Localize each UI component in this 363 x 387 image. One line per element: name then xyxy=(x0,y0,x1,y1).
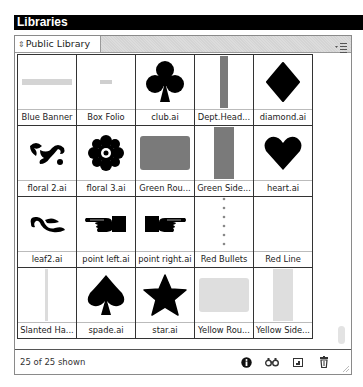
library-item-label: star.ai xyxy=(136,322,194,338)
rect-light-icon xyxy=(195,268,253,322)
dots-icon xyxy=(195,197,253,251)
point-right-icon xyxy=(136,197,194,251)
library-item[interactable]: Box Folio xyxy=(77,55,136,126)
library-item[interactable]: Yellow Rou... xyxy=(195,268,254,339)
floral2-icon xyxy=(18,126,76,180)
library-item-label: Red Line xyxy=(254,251,312,267)
library-item[interactable]: point left.ai xyxy=(77,197,136,268)
library-item-label: Green Side... xyxy=(195,180,253,196)
library-item[interactable]: floral 2.ai xyxy=(18,126,77,197)
library-item-label: Yellow Side... xyxy=(254,322,312,338)
library-item-label: floral 2.ai xyxy=(18,180,76,196)
library-item-label: Box Folio xyxy=(77,109,135,125)
vbar-gray-wide-icon xyxy=(195,126,253,180)
vbar-gray-icon xyxy=(195,55,253,109)
vline-light-icon xyxy=(18,268,76,322)
library-item[interactable]: Red Bullets xyxy=(195,197,254,268)
floral3-icon xyxy=(77,126,135,180)
library-item[interactable]: Blue Banner xyxy=(18,55,77,126)
hbar-light-icon xyxy=(18,55,76,109)
library-item-label: Slanted Ha... xyxy=(18,322,76,338)
library-item[interactable]: Red Line xyxy=(254,197,313,268)
panel-footer: 25 of 25 shown xyxy=(15,349,351,374)
delete-button[interactable] xyxy=(317,355,331,369)
leaf-icon xyxy=(18,197,76,251)
library-item[interactable]: Slanted Ha... xyxy=(18,268,77,339)
library-item-label: leaf2.ai xyxy=(18,251,76,267)
library-item-label: Dept.Head... xyxy=(195,109,253,125)
scrollbar-thumb[interactable] xyxy=(338,326,345,344)
spade-icon xyxy=(77,268,135,322)
library-item-label: Blue Banner xyxy=(18,109,76,125)
find-button[interactable] xyxy=(265,355,279,369)
vertical-scrollbar[interactable] xyxy=(335,54,349,346)
info-icon xyxy=(241,357,252,368)
blank-icon xyxy=(254,197,312,251)
library-item[interactable]: Yellow Side... xyxy=(254,268,313,339)
panel-menu-icon[interactable] xyxy=(334,38,348,49)
item-count: 25 of 25 shown xyxy=(20,350,85,374)
library-item[interactable]: Dept.Head... xyxy=(195,55,254,126)
library-select-value: Public Library xyxy=(26,38,90,49)
vbar-light-icon xyxy=(254,268,312,322)
rect-gray-icon xyxy=(136,126,194,180)
binoculars-icon xyxy=(265,357,279,367)
library-grid-viewport: Blue BannerBox Folioclub.aiDept.Head...d… xyxy=(17,54,315,346)
updown-arrows-icon: ⇕ xyxy=(18,40,25,49)
libraries-panel: ⇕Public Library Blue BannerBox Folioclub… xyxy=(14,35,352,375)
library-item-label: diamond.ai xyxy=(254,109,312,125)
club-icon xyxy=(136,55,194,109)
library-select[interactable]: ⇕Public Library xyxy=(15,36,101,52)
info-button[interactable] xyxy=(239,355,253,369)
library-item[interactable]: Green Side... xyxy=(195,126,254,197)
library-item-label: point right.ai xyxy=(136,251,194,267)
library-item[interactable]: Green Rou... xyxy=(136,126,195,197)
library-item-label: Yellow Rou... xyxy=(195,322,253,338)
point-left-icon xyxy=(77,197,135,251)
diamond-icon xyxy=(254,55,312,109)
library-item[interactable]: diamond.ai xyxy=(254,55,313,126)
new-item-icon xyxy=(293,357,304,367)
library-grid: Blue BannerBox Folioclub.aiDept.Head...d… xyxy=(17,54,313,339)
library-item[interactable]: heart.ai xyxy=(254,126,313,197)
library-item[interactable]: spade.ai xyxy=(77,268,136,339)
resize-grip-icon[interactable] xyxy=(342,365,350,373)
library-item[interactable]: star.ai xyxy=(136,268,195,339)
library-item-label: Red Bullets xyxy=(195,251,253,267)
panel-title: Libraries xyxy=(14,15,363,30)
library-item-label: club.ai xyxy=(136,109,194,125)
small-dash-icon xyxy=(77,55,135,109)
library-item-label: heart.ai xyxy=(254,180,312,196)
library-item[interactable]: floral 3.ai xyxy=(77,126,136,197)
new-item-button[interactable] xyxy=(291,355,305,369)
library-item-label: Green Rou... xyxy=(136,180,194,196)
library-item[interactable]: point right.ai xyxy=(136,197,195,268)
library-item[interactable]: club.ai xyxy=(136,55,195,126)
trash-icon xyxy=(319,356,329,368)
heart-icon xyxy=(254,126,312,180)
library-item-label: spade.ai xyxy=(77,322,135,338)
star-icon xyxy=(136,268,194,322)
library-item-label: floral 3.ai xyxy=(77,180,135,196)
library-item-label: point left.ai xyxy=(77,251,135,267)
library-item[interactable]: leaf2.ai xyxy=(18,197,77,268)
panel-header: ⇕Public Library xyxy=(15,36,351,53)
